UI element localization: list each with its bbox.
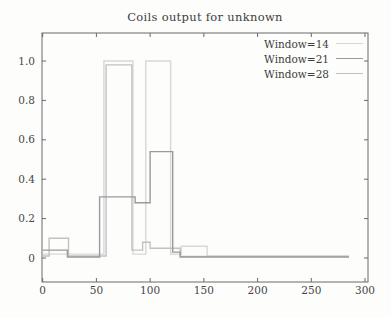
legend-item-window-28: Window=28: [264, 66, 363, 81]
legend-line-sample-window-21: [336, 58, 363, 59]
x-tick-label: 50: [90, 284, 103, 296]
legend: Window=14 Window=21 Window=28: [264, 36, 363, 81]
y-tick-label: 0.2: [18, 212, 35, 224]
legend-item-window-21: Window=21: [264, 51, 363, 66]
legend-label-window-28: Window=28: [264, 68, 329, 80]
legend-label-window-14: Window=14: [264, 38, 329, 50]
legend-item-window-14: Window=14: [264, 36, 363, 51]
x-tick-label: 300: [355, 284, 375, 296]
x-tick-label: 0: [39, 284, 46, 296]
series-line-window-21: [43, 152, 349, 257]
y-tick-label: 0.4: [18, 173, 35, 185]
coils-chart: Coils output for unknown 050100150200250…: [0, 0, 391, 318]
x-tick-label: 250: [301, 284, 321, 296]
series-line-window-28: [43, 65, 349, 257]
legend-label-window-21: Window=21: [264, 53, 329, 65]
x-tick-label: 100: [140, 284, 160, 296]
x-tick-label: 150: [194, 284, 214, 296]
legend-line-sample-window-28: [336, 73, 363, 74]
y-tick-label: 1.0: [18, 55, 35, 67]
legend-line-sample-window-14: [336, 43, 363, 44]
y-tick-label: 0.6: [18, 133, 35, 145]
y-tick-label: 0.8: [18, 94, 35, 106]
y-tick-label: 0: [28, 252, 35, 264]
series-line-window-14: [43, 61, 349, 256]
x-tick-label: 200: [248, 284, 268, 296]
